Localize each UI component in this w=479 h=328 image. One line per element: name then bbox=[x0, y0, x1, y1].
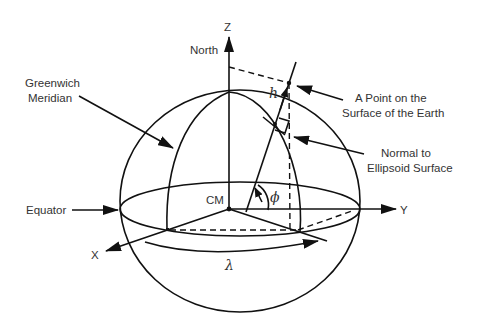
y-axis-label: Y bbox=[400, 204, 408, 216]
greenwich-pointer-arrow bbox=[79, 96, 173, 148]
center-of-mass-label: CM bbox=[206, 194, 224, 206]
ellipsoid-outline bbox=[120, 90, 360, 312]
tangent-tick bbox=[263, 117, 285, 135]
normal-pointer-arrow bbox=[294, 137, 364, 154]
greenwich-label-1: Greenwich bbox=[25, 77, 80, 89]
point-pointer-arrow bbox=[297, 86, 343, 100]
equator-label: Equator bbox=[26, 204, 66, 216]
dashed-z-projection bbox=[229, 67, 289, 83]
dashed-vertical-projection bbox=[289, 83, 290, 230]
normal-label-1: Normal to bbox=[381, 147, 431, 159]
north-label: North bbox=[190, 44, 218, 56]
latitude-arrow bbox=[255, 188, 262, 202]
latitude-symbol: ϕ bbox=[270, 189, 280, 205]
dashed-y-projection bbox=[298, 211, 352, 230]
geodetic-diagram: Z North Greenwich Meridian A Point on th… bbox=[0, 0, 479, 328]
greenwich-meridian-arc bbox=[167, 92, 229, 230]
point-label-1: A Point on the bbox=[355, 92, 427, 104]
x-axis-label: X bbox=[91, 249, 99, 261]
normal-label-2: Ellipsoid Surface bbox=[367, 162, 453, 174]
point-label-2: Surface of the Earth bbox=[342, 107, 444, 119]
greenwich-label-2: Meridian bbox=[28, 92, 72, 104]
x-equator-point bbox=[166, 228, 169, 231]
ellipsoid-point-dot bbox=[273, 122, 277, 126]
longitude-arc-arrow bbox=[145, 241, 318, 252]
height-symbol: h bbox=[269, 85, 278, 101]
z-axis-label: Z bbox=[224, 21, 231, 33]
surface-point-dot bbox=[287, 81, 291, 85]
center-of-mass-dot bbox=[227, 207, 232, 212]
longitude-symbol: λ bbox=[224, 257, 234, 273]
